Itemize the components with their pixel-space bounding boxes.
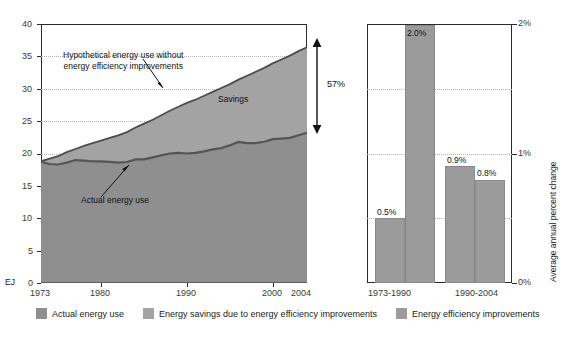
bar-xticklabel-1990-2004: 1990-2004 [455,288,498,298]
bar-value-label-1973-1990-efficiency: 2.0% [407,28,426,38]
bar-1973-1990-actual [375,218,405,283]
bar-gridline-1-0 [367,154,512,155]
area-xtick-2000 [273,283,274,287]
actual-use-annotation: Actual energy use [81,195,149,206]
bar-yticklabel-2: 2% [518,18,531,28]
legend-item-energy-savings: Energy savings due to energy efficiency … [143,308,377,319]
savings-bracket-label: 57% [327,79,345,90]
figure-legend: Actual energy use Energy savings due to … [36,308,553,319]
energy-use-area-chart: Hypothetical energy use without energy e… [41,24,307,283]
bar-1973-1990-efficiency [405,25,435,284]
legend-swatch-actual-energy-use [36,308,47,319]
bar-gridline-1-5 [367,89,512,90]
legend-swatch-energy-savings [143,308,154,319]
bar-xticklabel-1973-1990: 1973-1990 [368,288,411,298]
area-yticklabel-25: 25 [22,116,32,126]
savings-bracket-arrow [309,38,325,134]
area-xticklabel-1973: 1973 [30,288,50,298]
area-xticklabel-2000: 2000 [262,288,282,298]
area-yticklabel-40: 40 [22,19,32,29]
area-chart-ylabel: EJ [5,277,15,287]
area-yticklabel-10: 10 [22,213,32,223]
area-yticklabel-30: 30 [22,84,32,94]
bar-yticklabel-1: 1% [518,148,531,158]
legend-item-actual-energy-use: Actual energy use [36,308,124,319]
area-xtick-1990 [187,283,188,287]
area-xticklabel-2004: 2004 [291,288,311,298]
hypothetical-use-annotation: Hypothetical energy use without energy e… [63,50,184,72]
bar-ytick-1 [512,154,517,155]
area-xtick-1980 [101,283,102,287]
bar-chart-ylabel: Average annual percent change [548,162,558,282]
bar-1990-2004-actual [445,166,475,283]
bar-yticklabel-0: 0% [518,277,531,287]
legend-item-energy-efficiency-improvements: Energy efficiency improvements [396,308,539,319]
legend-label-energy-savings: Energy savings due to energy efficiency … [159,309,377,319]
bar-value-label-1990-2004-efficiency: 0.8% [477,168,496,178]
bar-ytick-2 [512,24,517,25]
legend-swatch-energy-efficiency-improvements [396,308,407,319]
hypothetical-use-annotation-line1: Hypothetical energy use without [63,50,184,60]
area-xticklabel-1980: 1980 [90,288,110,298]
bar-value-label-1990-2004-actual: 0.9% [447,155,466,165]
area-yticklabel-35: 35 [22,51,32,61]
area-yticklabel-0: 0 [28,278,33,288]
bar-ytick-0 [512,283,517,284]
area-xticklabel-1990: 1990 [176,288,196,298]
area-yticklabel-15: 15 [22,181,32,191]
area-yticklabel-20: 20 [22,148,32,158]
bar-value-label-1973-1990-actual: 0.5% [377,207,396,217]
legend-label-energy-efficiency-improvements: Energy efficiency improvements [412,309,539,319]
energy-efficiency-figure: Hypothetical energy use without energy e… [0,0,583,340]
bar-1990-2004-efficiency [475,180,505,283]
annual-percent-change-bar-chart: 0.5% 2.0% 0.9% 0.8% [367,24,512,283]
area-yticklabel-5: 5 [28,246,33,256]
savings-region-label: Savings [218,94,248,105]
hypothetical-use-annotation-line2: energy efficiency improvements [64,61,183,71]
legend-label-actual-energy-use: Actual energy use [52,309,124,319]
